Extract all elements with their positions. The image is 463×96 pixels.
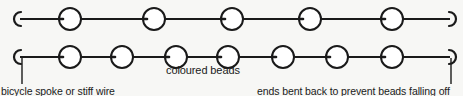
bottom-wire-right-hook-icon [449,50,456,64]
caption-coloured-beads: coloured beads [166,64,240,76]
top-wire-right-hook-icon [449,12,456,26]
bead [111,46,133,68]
top-wire-group [14,8,456,30]
top-wire-left-hook-icon [14,12,21,26]
bottom-wire-left-hook-icon [14,50,21,64]
bead [272,46,294,68]
bead [221,8,243,30]
bead [381,8,403,30]
caption-bent-ends: ends bent back to prevent beads falling … [257,85,450,96]
bead [143,8,165,30]
bead [299,8,321,30]
diagram-canvas [0,0,463,96]
bead-wire-diagram: coloured beads bicycle spoke or stiff wi… [0,0,463,96]
bead [326,46,348,68]
bead [381,46,403,68]
bead [59,8,81,30]
caption-bicycle-spoke: bicycle spoke or stiff wire [1,85,115,96]
bead [59,46,81,68]
